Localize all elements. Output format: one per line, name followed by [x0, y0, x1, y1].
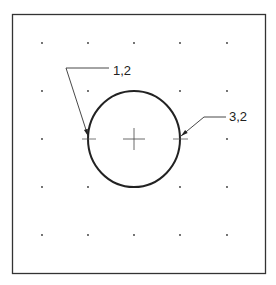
grid-dot: [179, 90, 181, 92]
grid-dot: [133, 234, 135, 236]
arrowhead-icon: [84, 129, 88, 136]
grid-dot: [179, 234, 181, 236]
grid-dot: [41, 234, 43, 236]
leader-line-2: [181, 117, 226, 136]
grid-dot: [179, 42, 181, 44]
grid-dot: [226, 138, 228, 140]
grid-dot: [179, 186, 181, 188]
grid-dot: [41, 42, 43, 44]
grid-dot: [87, 234, 89, 236]
callout-label-2: 3,2: [229, 109, 247, 124]
grid-dot: [41, 90, 43, 92]
grid-dot: [226, 234, 228, 236]
grid-dot: [226, 90, 228, 92]
grid-dot: [41, 138, 43, 140]
callout-label-1: 1,2: [113, 63, 131, 78]
grid-dot: [87, 42, 89, 44]
grid-dot: [226, 42, 228, 44]
diagram-canvas: 1,2 3,2: [0, 0, 276, 285]
grid-dot: [226, 186, 228, 188]
leader-line-1: [66, 68, 109, 136]
grid-dot: [87, 186, 89, 188]
grid-dot: [133, 42, 135, 44]
grid-dot: [41, 186, 43, 188]
center-mark-icon: [123, 128, 145, 150]
grid-dot: [87, 90, 89, 92]
